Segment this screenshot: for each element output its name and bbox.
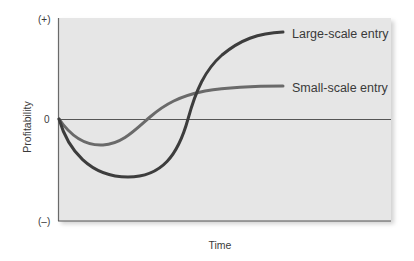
series-label-large: Large-scale entry bbox=[292, 27, 389, 41]
y-tick-negative: (–) bbox=[38, 216, 50, 227]
series-label-small: Small-scale entry bbox=[292, 81, 389, 95]
chart: Large-scale entry Small-scale entry (+) … bbox=[0, 0, 414, 261]
y-tick-zero: 0 bbox=[44, 114, 50, 125]
y-tick-positive: (+) bbox=[38, 14, 51, 25]
x-axis-title: Time bbox=[209, 239, 232, 251]
y-axis-title: Profitability bbox=[21, 101, 33, 153]
